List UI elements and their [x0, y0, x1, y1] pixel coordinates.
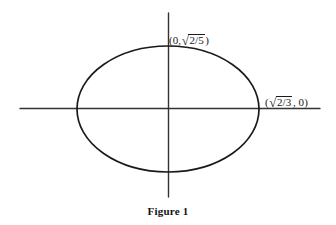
x-vertex-open-paren: (	[265, 97, 269, 108]
x-vertex-radicand: 2/3	[276, 96, 292, 109]
figure-caption: Figure 1	[0, 205, 336, 217]
y-vertex-close-paren: )	[205, 35, 209, 46]
coordinate-plane-diagram	[0, 0, 336, 225]
y-vertex-coordinate-label: (0, √ 2/5 )	[169, 33, 209, 46]
x-vertex-coordinate-label: ( √ 2/3 , 0)	[265, 95, 308, 108]
x-vertex-radical: √ 2/3	[269, 95, 292, 108]
x-vertex-close-paren: , 0)	[293, 97, 308, 108]
y-vertex-math: (0, √ 2/5 )	[169, 33, 209, 46]
x-vertex-math: ( √ 2/3 , 0)	[265, 95, 308, 108]
y-vertex-open-paren: (0,	[169, 35, 181, 46]
figure-container: (0, √ 2/5 ) ( √ 2/3 , 0) Figure 1	[0, 0, 336, 225]
y-vertex-radical: √ 2/5	[182, 33, 205, 46]
y-vertex-radicand: 2/5	[188, 34, 204, 47]
